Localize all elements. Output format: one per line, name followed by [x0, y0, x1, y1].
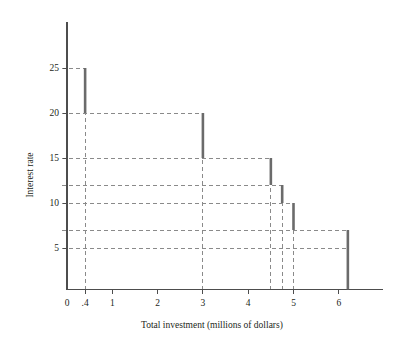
x-tick-label: 4: [246, 298, 251, 308]
y-tick-label: 25: [50, 63, 60, 73]
axes-layer: [67, 22, 383, 290]
x-tick-label: 5: [291, 298, 296, 308]
step-bars-layer: [85, 68, 348, 290]
y-tick-label: 15: [50, 153, 60, 163]
y-tick-label: 5: [54, 243, 59, 253]
x-axis-title: Total investment (millions of dollars): [141, 320, 283, 331]
tick-marks-layer: [63, 68, 339, 294]
y-axis-title: Interest rate: [25, 152, 35, 197]
guide-lines-layer: [62, 68, 348, 290]
x-tick-label: 3: [201, 298, 206, 308]
x-tick-label: 1: [110, 298, 115, 308]
x-tick-label: 0: [65, 298, 70, 308]
investment-demand-chart: 5101520250.4123456 Total investment (mil…: [0, 0, 404, 342]
x-tick-label: 2: [155, 298, 160, 308]
y-tick-label: 10: [50, 198, 60, 208]
x-tick-label: .4: [82, 298, 89, 308]
chart-plot-area: 5101520250.4123456 Total investment (mil…: [0, 0, 404, 342]
y-tick-label: 20: [50, 108, 60, 118]
x-tick-label: 6: [336, 298, 341, 308]
